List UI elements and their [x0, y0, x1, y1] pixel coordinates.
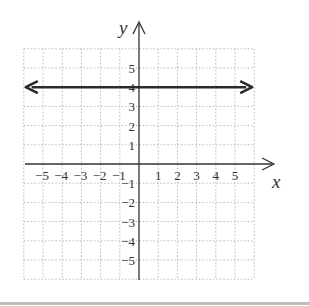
x-tick-label: −4: [54, 168, 68, 183]
y-tick-label: 3: [129, 99, 136, 114]
y-tick-label: 5: [129, 61, 136, 76]
y-tick-label: 1: [129, 138, 136, 153]
y-tick-label: −1: [121, 176, 135, 191]
bottom-divider: [0, 302, 309, 305]
x-tick-label: 4: [213, 168, 220, 183]
x-tick-label: 5: [232, 168, 239, 183]
y-axis-label: y: [117, 17, 128, 38]
y-tick-label: 2: [129, 119, 136, 134]
x-tick-label: 3: [193, 168, 200, 183]
coordinate-plane: −5−4−3−2−11234554321−1−2−3−4−5 x y: [0, 0, 309, 306]
y-tick-label: −5: [121, 253, 135, 268]
x-tick-label: −2: [93, 168, 107, 183]
x-tick-label: −3: [73, 168, 87, 183]
x-axis-label: x: [271, 171, 281, 192]
y-tick-label: −3: [121, 215, 135, 230]
x-tick-label: −5: [35, 168, 49, 183]
x-tick-label: 1: [155, 168, 162, 183]
y-tick-label: −4: [121, 234, 135, 249]
y-tick-label: −2: [121, 195, 135, 210]
x-tick-label: 2: [174, 168, 181, 183]
